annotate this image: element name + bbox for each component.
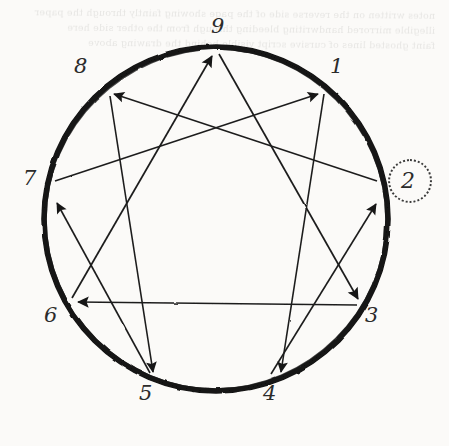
point-label-5[interactable]: 5: [139, 383, 152, 404]
point-label-3[interactable]: 3: [365, 305, 378, 326]
enneagram-diagram: [0, 0, 449, 446]
highlight-ring-point-2: [388, 159, 432, 203]
arrow-7-to-1: [55, 94, 318, 181]
enneagram-outer-circle: [44, 47, 388, 391]
point-label-7[interactable]: 7: [23, 168, 36, 189]
inner-triangle-arrows: [72, 54, 358, 305]
point-label-4[interactable]: 4: [263, 383, 276, 404]
arrow-1-to-4: [281, 94, 324, 372]
arrow-2-to-8: [114, 94, 377, 181]
arrow-9-to-3: [219, 54, 358, 299]
hexad-arrows: [55, 94, 377, 374]
point-label-8[interactable]: 8: [74, 56, 87, 77]
enneagram-page: notes written on the reverse side of the…: [0, 0, 449, 446]
point-label-6[interactable]: 6: [44, 305, 57, 326]
point-label-9[interactable]: 9: [211, 16, 224, 37]
arrow-8-to-5: [110, 96, 153, 372]
arrow-6-to-9: [72, 56, 212, 298]
point-label-1[interactable]: 1: [330, 56, 343, 77]
arrow-4-to-2: [271, 204, 376, 374]
